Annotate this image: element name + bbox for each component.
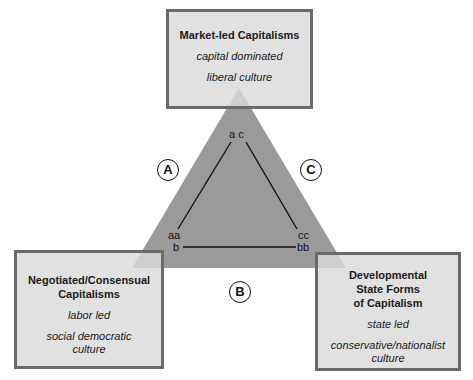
circle-c: C bbox=[300, 159, 322, 181]
market-led-line2: liberal culture bbox=[169, 71, 310, 84]
circle-a: A bbox=[157, 159, 179, 181]
developmental-line2b: culture bbox=[318, 352, 458, 365]
developmental-line1: state led bbox=[318, 318, 458, 331]
vertex-label-b: b bbox=[173, 241, 179, 253]
market-led-box: Market-led Capitalisms capital dominated… bbox=[166, 9, 313, 109]
vertex-label-top: a c bbox=[229, 128, 244, 140]
vertex-label-aa: aa bbox=[168, 229, 180, 241]
negotiated-title-2: Capitalisms bbox=[17, 287, 161, 301]
developmental-title-3: of Capitalism bbox=[318, 296, 458, 310]
negotiated-line2a: social democratic bbox=[17, 330, 161, 343]
market-led-line1: capital dominated bbox=[169, 50, 310, 63]
negotiated-title-1: Negotiated/Consensual bbox=[17, 273, 161, 287]
vertex-label-cc: cc bbox=[298, 229, 309, 241]
negotiated-line2b: culture bbox=[17, 343, 161, 356]
negotiated-box: Negotiated/Consensual Capitalisms labor … bbox=[14, 250, 164, 369]
developmental-line2a: conservative/nationalist bbox=[318, 339, 458, 352]
developmental-box: Developmental State Forms of Capitalism … bbox=[315, 252, 461, 371]
vertex-label-bb: bb bbox=[297, 241, 309, 253]
developmental-title-2: State Forms bbox=[318, 282, 458, 296]
circle-b: B bbox=[229, 281, 251, 303]
market-led-title: Market-led Capitalisms bbox=[169, 28, 310, 42]
developmental-title-1: Developmental bbox=[318, 268, 458, 282]
negotiated-line1: labor led bbox=[17, 309, 161, 322]
